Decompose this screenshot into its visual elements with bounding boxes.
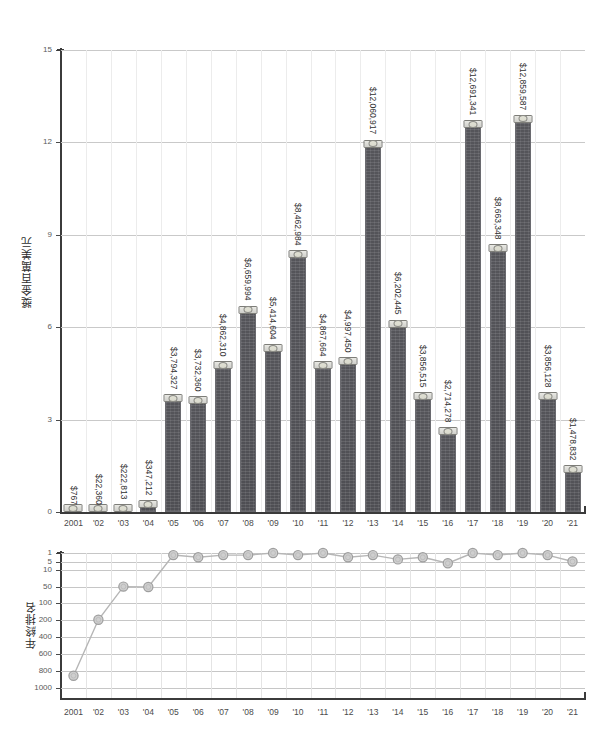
bar-column[interactable]: $4,867,664 <box>315 50 331 512</box>
bar-column[interactable]: $347,212 <box>140 50 156 512</box>
bar[interactable] <box>440 428 456 512</box>
bar-chart-column-divider <box>261 50 262 512</box>
bar[interactable] <box>390 321 406 512</box>
bar[interactable] <box>265 345 281 512</box>
bar-chart-x-axis-line <box>60 512 586 514</box>
rank-data-point[interactable] <box>318 548 327 557</box>
rank-data-point[interactable] <box>393 555 402 564</box>
cash-stack-icon <box>189 396 208 404</box>
bar-value-label: $2,714,278 <box>444 380 453 423</box>
rank-data-point[interactable] <box>493 551 502 560</box>
rank-data-point[interactable] <box>568 557 577 566</box>
rank-data-point[interactable] <box>343 553 352 562</box>
rank-data-point[interactable] <box>293 551 302 560</box>
rank-chart-y-tick-100: 100 <box>26 598 52 607</box>
bar-column[interactable]: $2,714,278 <box>440 50 456 512</box>
rank-data-point[interactable] <box>144 582 153 591</box>
bar-chart-y-tick-6: 6 <box>34 322 52 331</box>
bar[interactable] <box>165 395 181 512</box>
bar-value-label: $5,414,604 <box>269 297 278 340</box>
rank-data-point[interactable] <box>468 548 477 557</box>
cash-stack-icon <box>214 361 233 369</box>
bar-chart-column-divider <box>211 50 212 512</box>
rank-data-point[interactable] <box>368 551 377 560</box>
bar[interactable] <box>340 358 356 512</box>
bar[interactable] <box>190 397 206 512</box>
bar-value-label: $6,659,994 <box>244 258 253 301</box>
bar-chart-column-divider <box>335 50 336 512</box>
bar-column[interactable]: $5,414,604 <box>265 50 281 512</box>
bar-column[interactable]: $12,859,587 <box>515 50 531 512</box>
bar-column[interactable]: $1,478,832 <box>565 50 581 512</box>
cash-stack-icon <box>289 250 308 258</box>
rank-data-point[interactable] <box>244 551 253 560</box>
bar-column[interactable]: $8,663,348 <box>490 50 506 512</box>
rank-chart-y-axis-label: 年終排名 <box>26 601 37 649</box>
rank-data-point[interactable] <box>518 548 527 557</box>
rank-chart-x-axis-line <box>60 698 586 700</box>
bar-column[interactable]: $222,813 <box>115 50 131 512</box>
bar[interactable] <box>490 245 506 512</box>
bar-value-label: $347,212 <box>144 460 153 495</box>
bar-column[interactable]: $4,862,310 <box>215 50 231 512</box>
bar-value-label: $222,813 <box>119 464 128 499</box>
bar-chart-column-divider <box>161 50 162 512</box>
bar-column[interactable]: $12,060,917 <box>365 50 381 512</box>
bar-column[interactable]: $3,794,327 <box>165 50 181 512</box>
rank-chart-x-tick-21: '21 <box>556 707 590 717</box>
cash-stack-icon <box>139 500 158 508</box>
bar-chart-column-divider <box>236 50 237 512</box>
cash-stack-icon <box>114 504 133 512</box>
bar[interactable] <box>415 393 431 512</box>
bar-column[interactable]: $3,856,515 <box>415 50 431 512</box>
bar-column[interactable]: $6,659,994 <box>240 50 256 512</box>
rank-polyline <box>74 553 573 676</box>
cash-stack-icon <box>513 115 532 123</box>
rank-data-point[interactable] <box>94 615 103 624</box>
bar-column[interactable]: $22,360 <box>90 50 106 512</box>
rank-data-point[interactable] <box>443 559 452 568</box>
bar[interactable] <box>240 307 256 512</box>
bar-chart-column-divider <box>360 50 361 512</box>
bar-column[interactable]: $6,202,445 <box>390 50 406 512</box>
rank-data-point[interactable] <box>169 551 178 560</box>
bar-column[interactable]: $3,732,360 <box>190 50 206 512</box>
cash-stack-icon <box>438 427 457 435</box>
rank-data-point[interactable] <box>269 548 278 557</box>
bar-chart-column-divider <box>535 50 536 512</box>
rank-chart-y-tick-400: 400 <box>26 632 52 641</box>
rank-data-point[interactable] <box>119 582 128 591</box>
rank-data-point[interactable] <box>543 551 552 560</box>
cash-stack-icon <box>563 465 582 473</box>
bar[interactable] <box>515 116 531 512</box>
bar[interactable] <box>215 362 231 512</box>
bar-value-label: $12,060,917 <box>369 87 378 134</box>
bar[interactable] <box>290 251 306 512</box>
rank-data-point[interactable] <box>194 553 203 562</box>
bar-value-label: $3,732,360 <box>194 349 203 392</box>
bar-column[interactable]: $767 <box>65 50 81 512</box>
bar-chart-y-tick-12: 12 <box>34 137 52 146</box>
bar[interactable] <box>465 121 481 512</box>
bar-chart-column-divider <box>86 50 87 512</box>
bar-value-label: $22,360 <box>94 474 103 505</box>
bar[interactable] <box>540 393 556 512</box>
bar-column[interactable]: $8,462,984 <box>290 50 306 512</box>
bar-column[interactable]: $4,997,450 <box>340 50 356 512</box>
bar-column[interactable]: $12,691,341 <box>465 50 481 512</box>
cash-stack-icon <box>413 392 432 400</box>
bar-column[interactable]: $3,856,128 <box>540 50 556 512</box>
rank-data-point[interactable] <box>418 553 427 562</box>
bar-chart-column-divider <box>385 50 386 512</box>
bar[interactable] <box>365 141 381 512</box>
bar-value-label: $3,794,327 <box>169 347 178 390</box>
cash-stack-icon <box>239 306 258 314</box>
rank-data-point[interactable] <box>219 551 228 560</box>
cash-stack-icon <box>338 357 357 365</box>
bar-chart-y-tick-3: 3 <box>34 415 52 424</box>
rank-chart-y-tick-800: 800 <box>26 666 52 675</box>
bar-chart-column-divider <box>311 50 312 512</box>
bar[interactable] <box>315 362 331 512</box>
bar-value-label: $3,856,515 <box>419 345 428 388</box>
rank-data-point[interactable] <box>69 671 78 680</box>
